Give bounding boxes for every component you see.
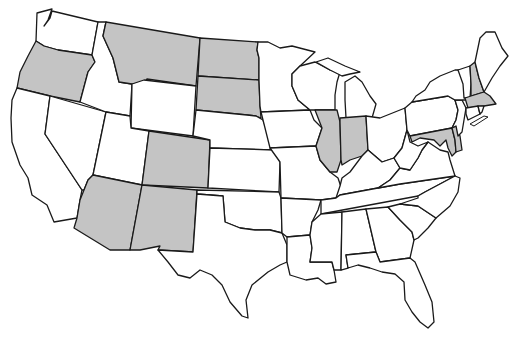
state-florida: Florida <box>346 252 434 328</box>
state-wyoming: Wyoming <box>131 80 196 136</box>
us-map: WashingtonOregonCaliforniaNevadaIdahoMon… <box>0 0 523 340</box>
map-canvas: WashingtonOregonCaliforniaNevadaIdahoMon… <box>0 0 523 340</box>
state-north-dakota: North Dakota <box>198 38 259 80</box>
state-montana: Montana <box>103 22 200 86</box>
state-kansas: Kansas <box>208 148 280 192</box>
state-iowa: Iowa <box>261 110 322 148</box>
state-mississippi: Mississippi <box>310 212 342 270</box>
state-new-mexico: New Mexico <box>130 185 197 252</box>
state-new-york: New York <box>412 70 466 102</box>
states-layer: WashingtonOregonCaliforniaNevadaIdahoMon… <box>11 9 508 328</box>
state-colorado: Colorado <box>142 131 210 188</box>
